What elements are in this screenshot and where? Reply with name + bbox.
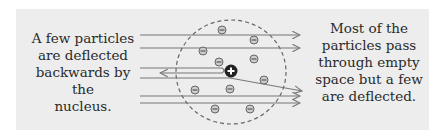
electron-icon <box>211 105 219 113</box>
caption-line: through empty <box>314 54 424 71</box>
caption-line: A few particles <box>24 30 142 47</box>
electron-icon <box>226 85 234 93</box>
caption-line: nucleus. <box>24 98 142 115</box>
particle-paths <box>140 35 302 103</box>
electron-icon <box>250 55 258 63</box>
right-caption: Most of the particles pass through empty… <box>314 20 424 105</box>
caption-line: Most of the <box>314 20 424 37</box>
electron-icon <box>246 105 254 113</box>
nucleus-icon <box>225 65 238 78</box>
electron-icon <box>199 47 207 55</box>
electron-icon <box>260 76 268 84</box>
caption-line: space but a few <box>314 71 424 88</box>
caption-line: backwards by the <box>24 64 142 98</box>
electron-icon <box>250 36 258 44</box>
left-caption: A few particles are deflected backwards … <box>24 30 142 115</box>
caption-line: are deflected <box>24 47 142 64</box>
electron-icon <box>218 26 226 34</box>
caption-line: are deflected. <box>314 88 424 105</box>
electron-icon <box>191 86 199 94</box>
electron-icon <box>215 58 223 66</box>
caption-line: particles pass <box>314 37 424 54</box>
